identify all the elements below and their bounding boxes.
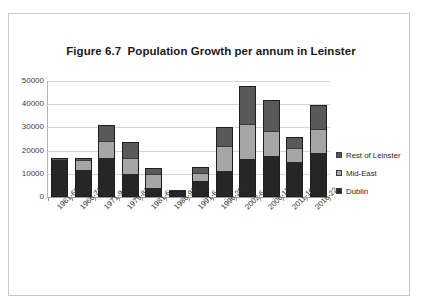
bar-stack[interactable] <box>51 158 68 197</box>
bar-segment[interactable] <box>239 124 256 159</box>
bar-segment[interactable] <box>98 141 115 158</box>
bar-stack[interactable] <box>122 142 139 197</box>
bar-stack[interactable] <box>216 127 233 197</box>
plot-area <box>48 81 330 198</box>
square-swatch-icon <box>336 188 342 194</box>
gridline <box>48 127 330 128</box>
figure-page: Figure 6.7 Population Growth per annum i… <box>0 0 422 308</box>
bar-segment[interactable] <box>98 125 115 141</box>
bar-segment[interactable] <box>75 158 92 161</box>
x-axis-labels: 1961-661966-711971-91979-811981-61986-91… <box>48 199 330 269</box>
gridline <box>48 81 330 82</box>
bar-segment[interactable] <box>192 167 209 173</box>
bar-segment[interactable] <box>263 156 280 197</box>
legend-item[interactable]: Rest of Leinster <box>336 148 420 162</box>
bar-segment[interactable] <box>51 158 68 160</box>
y-axis-tick-label: 10000 <box>4 170 44 178</box>
bar-stack[interactable] <box>310 105 327 197</box>
y-axis-tick-label: 50000 <box>4 77 44 85</box>
bar-segment[interactable] <box>145 174 162 188</box>
y-axis-tick-label: 20000 <box>4 147 44 155</box>
bar-segment[interactable] <box>145 168 162 174</box>
chart-legend: Rest of LeinsterMid-EastDublin <box>336 148 420 202</box>
bar-stack[interactable] <box>263 100 280 197</box>
bar-stack[interactable] <box>286 137 303 197</box>
square-swatch-icon <box>336 152 342 158</box>
bar-segment[interactable] <box>263 131 280 156</box>
legend-item-label: Mid-East <box>346 169 377 178</box>
y-axis-line <box>47 81 48 198</box>
legend-item[interactable]: Dublin <box>336 184 420 198</box>
bar-segment[interactable] <box>263 100 280 132</box>
bar-segment[interactable] <box>51 160 68 197</box>
bar-segment[interactable] <box>310 105 327 129</box>
bar-segment[interactable] <box>122 158 139 174</box>
bar-segment[interactable] <box>239 86 256 124</box>
bar-segment[interactable] <box>216 127 233 147</box>
bar-segment[interactable] <box>122 142 139 157</box>
bar-segment[interactable] <box>286 137 303 149</box>
y-axis-tick-label: 30000 <box>4 123 44 131</box>
gridline <box>48 104 330 105</box>
legend-item[interactable]: Mid-East <box>336 166 420 180</box>
chart-title: Figure 6.7 Population Growth per annum i… <box>0 45 422 57</box>
legend-item-label: Rest of Leinster <box>346 151 401 160</box>
bar-segment[interactable] <box>75 160 92 170</box>
y-axis-tick-label: 40000 <box>4 100 44 108</box>
y-axis-tick-label: 0 <box>4 193 44 201</box>
y-axis-labels: 01000020000300004000050000 <box>0 81 44 198</box>
bar-segment[interactable] <box>310 129 327 154</box>
bar-stack[interactable] <box>98 125 115 197</box>
legend-item-label: Dublin <box>346 187 368 196</box>
bar-segment[interactable] <box>216 146 233 171</box>
square-swatch-icon <box>336 170 342 176</box>
bar-segment[interactable] <box>192 173 209 181</box>
bar-segment[interactable] <box>169 190 186 191</box>
bar-segment[interactable] <box>286 148 303 162</box>
